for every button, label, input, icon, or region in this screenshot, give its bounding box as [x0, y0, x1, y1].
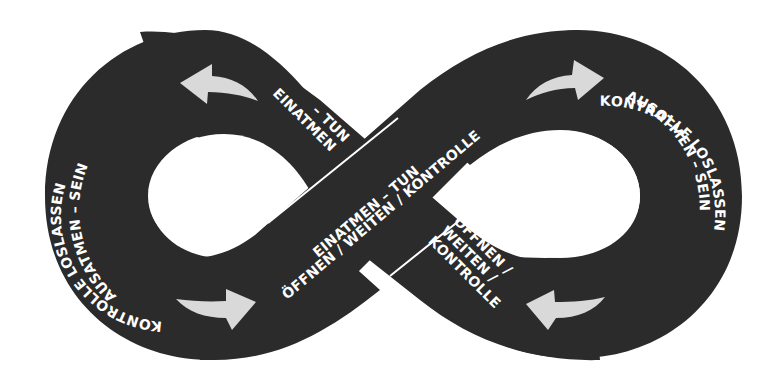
infinity-diagram: AUSATMEN – SEIN KONTROLLE LOSLASSEN EINA… [0, 0, 782, 382]
right-loop-hole [472, 131, 640, 258]
